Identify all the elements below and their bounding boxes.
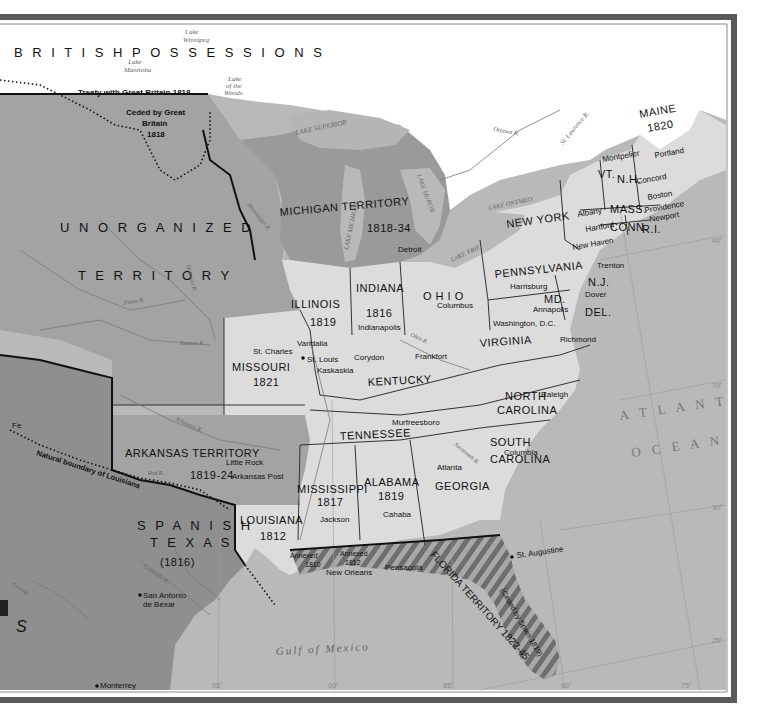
label-texas-year: (1816) — [160, 556, 195, 568]
label-georgia: GEORGIA — [435, 480, 490, 492]
label-louisiana-year: 1812 — [260, 530, 286, 542]
label-annexed-1810: Annexed — [290, 552, 318, 559]
city-washington: Washington, D.C. — [493, 319, 555, 328]
city-vandalia: Vandalia — [297, 339, 328, 348]
deg-70: 70° — [712, 382, 723, 389]
city-harrisburg: Harrisburg — [510, 282, 547, 291]
city-columbus: Columbus — [437, 301, 473, 310]
city-richmond: Richmond — [560, 335, 596, 344]
city-arkansas-post: Arkansas Post — [232, 472, 284, 481]
city-st-charles: St. Charles — [253, 347, 293, 356]
frame-bottom-bar — [0, 697, 737, 703]
city-indianapolis: Indianapolis — [358, 323, 401, 332]
label-treaty-line: Treaty with Great Britain 1818 — [78, 88, 191, 97]
label-spanish: S P A N I S H — [137, 518, 253, 533]
label-vt: VT. — [598, 168, 615, 180]
label-missouri: MISSOURI — [232, 361, 290, 373]
deg-75: 75° — [681, 682, 692, 689]
label-del: DEL. — [585, 306, 611, 318]
deg-90: 90° — [328, 682, 339, 689]
city-little-rock: Little Rock — [226, 458, 264, 467]
label-alabama: ALABAMA — [364, 476, 420, 488]
city-san-antonio: San Antonio — [143, 591, 187, 600]
label-ceded-2: Britain — [142, 119, 167, 128]
city-jackson: Jackson — [320, 515, 349, 524]
label-illinois-year: 1819 — [310, 316, 336, 328]
label-annexed-1812-year: 1812 — [345, 559, 361, 566]
label-lake-manitoba: Lake — [127, 58, 142, 66]
city-monterrey: Monterrey — [100, 681, 136, 690]
city-corydon: Corydon — [354, 353, 384, 362]
label-nj: N.J. — [588, 276, 610, 288]
city-raleigh: Raleigh — [541, 390, 568, 399]
deg-95: 95° — [212, 682, 223, 689]
label-md: MD. — [544, 293, 566, 305]
label-south-carolina-1: SOUTH — [490, 436, 531, 448]
label-partial-s: S — [16, 618, 27, 635]
label-illinois: ILLINOIS — [291, 298, 340, 310]
city-dover: Dover — [585, 290, 607, 299]
frame-right-bar — [731, 14, 737, 703]
label-territory: T E R R I T O R Y — [78, 268, 232, 283]
label-indiana: INDIANA — [356, 282, 404, 294]
label-arkansas-years: 1819-24 — [190, 469, 234, 481]
deg-85: 85° — [443, 682, 454, 689]
city-de-bexar: de Béxar — [143, 600, 175, 609]
label-ceded-3: 1818 — [147, 130, 165, 139]
label-red-river: Red R. — [147, 470, 164, 476]
label-alabama-year: 1819 — [378, 490, 404, 502]
city-detroit: Detroit — [398, 245, 422, 254]
label-lake-manitoba-2: Manitoba — [123, 66, 152, 74]
historical-map-1818-1822: B R I T I S H P O S S E S S I O N S Trea… — [0, 0, 763, 728]
city-pensacola: Pensacola — [385, 563, 423, 572]
label-ceded-1: Ceded by Great — [126, 108, 185, 117]
label-kansas-river: Kansas R. — [179, 340, 204, 346]
city-new-orleans: New Orleans — [326, 568, 372, 577]
deg-30: 30° — [712, 504, 723, 511]
label-ri: R.I. — [642, 223, 661, 235]
label-santa-fe: Fe — [12, 421, 22, 430]
frame-top-bar — [0, 14, 737, 20]
label-mass: MASS. — [610, 203, 647, 215]
label-lake-woods-3: Woods — [224, 89, 243, 97]
city-murfreesboro: Murfreesboro — [392, 418, 440, 427]
label-mississippi: MISSISSIPPI — [297, 483, 368, 495]
deg-80: 80° — [561, 682, 572, 689]
binding-shadow — [0, 600, 8, 616]
city-kaskaskia: Kaskaskia — [317, 366, 354, 375]
label-michigan-years: 1818-34 — [367, 222, 411, 234]
label-british-possessions: B R I T I S H P O S S E S S I O N S — [14, 45, 325, 60]
city-trenton: Trenton — [597, 261, 624, 270]
deg-40: 40° — [712, 237, 723, 244]
city-columbia: Columbia — [504, 448, 538, 457]
label-missouri-year: 1821 — [253, 376, 279, 388]
city-st-louis: St. Louis — [307, 355, 338, 364]
deg-25: 25° — [712, 637, 723, 644]
label-indiana-year: 1816 — [366, 307, 392, 319]
city-atlanta: Atlanta — [437, 463, 462, 472]
label-lake-winnipeg-2: Winnipeg — [183, 36, 210, 44]
label-louisiana: LOUISIANA — [240, 514, 303, 526]
label-annexed-1812: Annexed — [340, 550, 368, 557]
label-annexed-1810-year: 1810 — [305, 561, 321, 568]
label-north-carolina-2: CAROLINA — [497, 404, 557, 416]
city-annapolis: Annapolis — [533, 305, 568, 314]
city-frankfort: Frankfort — [415, 352, 448, 361]
label-lake-winnipeg: Lake — [184, 28, 199, 36]
city-cahaba: Cahaba — [383, 510, 412, 519]
label-mississippi-year: 1817 — [317, 496, 343, 508]
label-texas: T E X A S — [150, 535, 232, 550]
label-unorganized: U N O R G A N I Z E D — [60, 220, 254, 235]
